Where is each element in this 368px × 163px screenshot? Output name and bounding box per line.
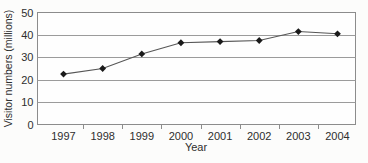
y-axis-title: Visitor numbers (millions)	[2, 9, 15, 129]
y-tick-label: 20	[21, 74, 33, 86]
y-tick-label: 40	[21, 29, 33, 41]
y-tick-label: 30	[21, 51, 33, 63]
plot-area: 0102030405019971998199920002001200220032…	[0, 0, 368, 163]
y-tick-label: 0	[27, 119, 33, 131]
visitor-numbers-line-chart: 0102030405019971998199920002001200220032…	[0, 0, 368, 163]
y-tick-label: 10	[21, 96, 33, 108]
x-axis-title: Year	[37, 141, 355, 153]
plot-frame	[38, 13, 356, 125]
y-tick-label: 50	[21, 7, 33, 19]
